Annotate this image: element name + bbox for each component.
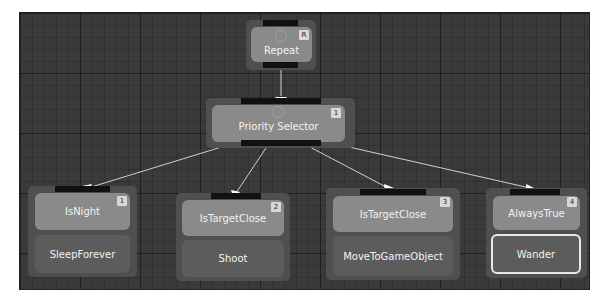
priority-selector-label: Priority Selector xyxy=(212,121,345,132)
condition-label: IsTargetClose xyxy=(200,213,266,224)
input-connector[interactable] xyxy=(360,189,426,195)
branch-node-2[interactable]: IsTargetClose 2 Shoot xyxy=(176,193,290,281)
input-connector[interactable] xyxy=(241,98,321,104)
repeat-body[interactable]: Repeat R xyxy=(251,27,312,62)
condition-task[interactable]: IsTargetClose xyxy=(333,196,453,232)
input-connector[interactable] xyxy=(55,186,110,192)
branch-node-3[interactable]: IsTargetClose 3 MoveToGameObject xyxy=(326,188,460,280)
branch-index-badge: 4 xyxy=(567,197,577,207)
condition-task[interactable]: IsNight xyxy=(35,193,130,230)
repeat-badge: R xyxy=(299,30,309,40)
branch-index-badge: 1 xyxy=(117,196,127,206)
branch-node-1[interactable]: IsNight 1 SleepForever xyxy=(28,186,137,277)
branch-node-4[interactable]: AlwaysTrue 4 Wander xyxy=(486,188,587,278)
condition-label: IsTargetClose xyxy=(360,209,426,220)
selector-icon xyxy=(272,106,284,118)
repeat-label: Repeat xyxy=(251,45,312,56)
condition-label: AlwaysTrue xyxy=(508,208,564,219)
action-task-selected[interactable]: Wander xyxy=(491,234,581,274)
repeat-node[interactable]: Repeat R xyxy=(246,20,316,70)
action-task[interactable]: MoveToGameObject xyxy=(333,236,453,276)
output-connector[interactable] xyxy=(263,62,298,68)
branch-index-badge: 2 xyxy=(271,202,281,212)
repeat-icon xyxy=(275,30,287,42)
condition-label: IsNight xyxy=(65,206,100,217)
priority-selector-body[interactable]: Priority Selector 1 xyxy=(212,105,345,142)
action-label: Shoot xyxy=(219,253,248,264)
output-connector[interactable] xyxy=(241,140,321,146)
input-connector[interactable] xyxy=(211,193,261,199)
input-connector[interactable] xyxy=(263,20,298,26)
input-connector[interactable] xyxy=(510,189,560,195)
action-task[interactable]: Shoot xyxy=(182,240,284,277)
branch-index-badge: 3 xyxy=(440,197,450,207)
action-label: Wander xyxy=(517,249,555,260)
priority-selector-node[interactable]: Priority Selector 1 xyxy=(206,98,355,148)
action-label: SleepForever xyxy=(50,249,116,260)
condition-task[interactable]: IsTargetClose xyxy=(182,200,284,236)
action-label: MoveToGameObject xyxy=(343,251,443,262)
action-task[interactable]: SleepForever xyxy=(35,235,130,273)
priority-selector-badge: 1 xyxy=(331,108,341,118)
